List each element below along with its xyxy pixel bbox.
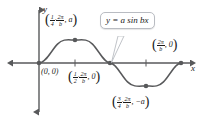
paren-close: ) <box>145 94 150 109</box>
label-origin-text: (0, 0) <box>41 67 58 76</box>
point-minimum <box>144 84 149 89</box>
x-axis-label: x <box>191 64 195 73</box>
paren-close: ) <box>173 37 178 52</box>
label-minimum-value: −a <box>135 97 144 106</box>
label-minimum: (34·2πb, −a) <box>112 95 150 109</box>
point-period-end-zero <box>179 61 184 66</box>
fraction-two-pi-over-b: 2πb <box>157 39 165 52</box>
label-period-end-zero: (2πb, 0) <box>152 38 177 52</box>
paren-close: ) <box>95 69 100 84</box>
callout-tail <box>112 36 125 63</box>
label-origin: (0, 0) <box>41 68 58 76</box>
figure-canvas: y x y = a sin bx (0, 0) (14·2πb, a) (12·… <box>0 0 204 122</box>
equation-callout-text: y = a sin bx <box>106 15 149 25</box>
label-midpoint-zero: (12·2πb, 0) <box>68 70 100 84</box>
point-maximum <box>73 38 78 43</box>
paren-close: ) <box>72 12 77 27</box>
label-maximum: (14·2πb, a) <box>45 13 77 27</box>
equation-callout: y = a sin bx <box>100 12 155 29</box>
point-origin <box>37 61 42 66</box>
